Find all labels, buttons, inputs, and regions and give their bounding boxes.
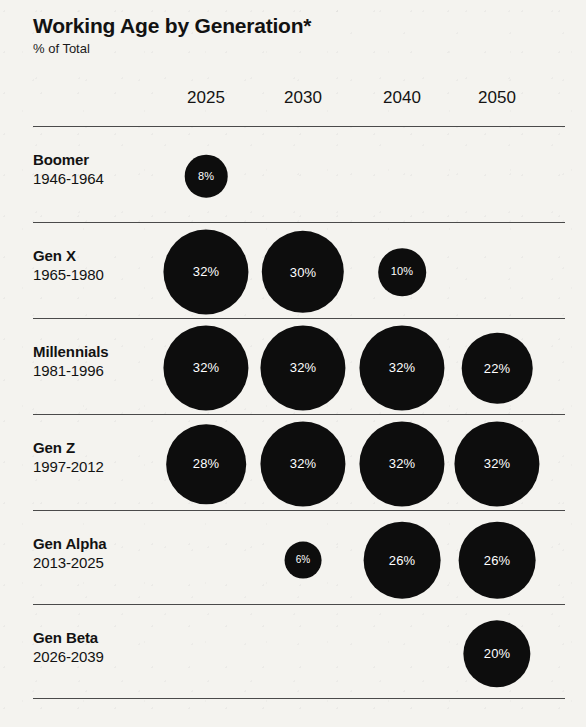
column-header-2040: 2040 [383, 88, 421, 108]
generation-name: Gen X [33, 246, 104, 265]
bubble-millennials-2030[interactable]: 32% [260, 325, 345, 410]
bubble-gen-z-2050[interactable]: 32% [454, 421, 539, 506]
column-header-2030: 2030 [284, 88, 322, 108]
bubble-gen-alpha-2040[interactable]: 26% [364, 522, 441, 599]
bubble-gen-beta-2050[interactable]: 20% [463, 620, 530, 687]
bubble-value-label: 26% [389, 553, 415, 566]
row-label-millennials: Millennials1981-1996 [33, 342, 109, 380]
page-title: Working Age by Generation* [33, 14, 311, 38]
row-divider [33, 698, 565, 699]
bubble-gen-z-2025[interactable]: 28% [166, 424, 246, 504]
generation-years: 2026-2039 [33, 647, 104, 666]
column-header-2025: 2025 [187, 88, 225, 108]
generation-years: 1981-1996 [33, 361, 109, 380]
row-label-gen-beta: Gen Beta2026-2039 [33, 628, 104, 666]
generation-name: Gen Beta [33, 628, 104, 647]
bubble-value-label: 20% [484, 647, 510, 660]
bubble-value-label: 32% [290, 458, 316, 471]
generation-years: 1946-1964 [33, 169, 104, 188]
bubble-gen-z-2030[interactable]: 32% [260, 421, 345, 506]
generation-name: Gen Alpha [33, 534, 107, 553]
row-label-gen-x: Gen X1965-1980 [33, 246, 104, 284]
bubble-value-label: 32% [389, 458, 415, 471]
row-divider [33, 222, 565, 223]
row-label-boomer: Boomer1946-1964 [33, 150, 104, 188]
row-label-gen-z: Gen Z1997-2012 [33, 438, 104, 476]
bubble-gen-alpha-2050[interactable]: 26% [459, 522, 536, 599]
bubble-value-label: 32% [389, 362, 415, 375]
bubble-value-label: 32% [290, 362, 316, 375]
bubble-chart: Working Age by Generation* % of Total 20… [0, 0, 586, 727]
generation-name: Boomer [33, 150, 104, 169]
row-divider [33, 318, 565, 319]
generation-years: 1997-2012 [33, 457, 104, 476]
row-divider [33, 604, 565, 605]
bubble-gen-alpha-2030[interactable]: 6% [285, 542, 322, 579]
bubble-value-label: 32% [193, 266, 219, 279]
bubble-boomer-2025[interactable]: 8% [185, 155, 228, 198]
bubble-gen-x-2030[interactable]: 30% [262, 231, 344, 313]
bubble-value-label: 6% [296, 555, 311, 565]
bubble-value-label: 10% [391, 266, 413, 277]
row-divider [33, 126, 565, 127]
bubble-gen-x-2025[interactable]: 32% [163, 229, 248, 314]
row-label-gen-alpha: Gen Alpha2013-2025 [33, 534, 107, 572]
bubble-millennials-2040[interactable]: 32% [359, 325, 444, 410]
generation-name: Gen Z [33, 438, 104, 457]
generation-years: 2013-2025 [33, 553, 107, 572]
generation-years: 1965-1980 [33, 265, 104, 284]
bubble-gen-z-2040[interactable]: 32% [359, 421, 444, 506]
bubble-value-label: 22% [484, 361, 510, 374]
bubble-value-label: 32% [193, 362, 219, 375]
row-divider [33, 414, 565, 415]
row-divider [33, 510, 565, 511]
bubble-millennials-2050[interactable]: 22% [462, 333, 533, 404]
bubble-gen-x-2040[interactable]: 10% [378, 248, 426, 296]
column-header-2050: 2050 [478, 88, 516, 108]
bubble-value-label: 8% [198, 171, 214, 182]
page-subtitle: % of Total [33, 41, 90, 56]
bubble-value-label: 30% [290, 265, 316, 278]
generation-name: Millennials [33, 342, 109, 361]
bubble-value-label: 32% [484, 458, 510, 471]
bubble-value-label: 26% [484, 553, 510, 566]
bubble-millennials-2025[interactable]: 32% [163, 325, 248, 410]
bubble-value-label: 28% [193, 458, 219, 471]
